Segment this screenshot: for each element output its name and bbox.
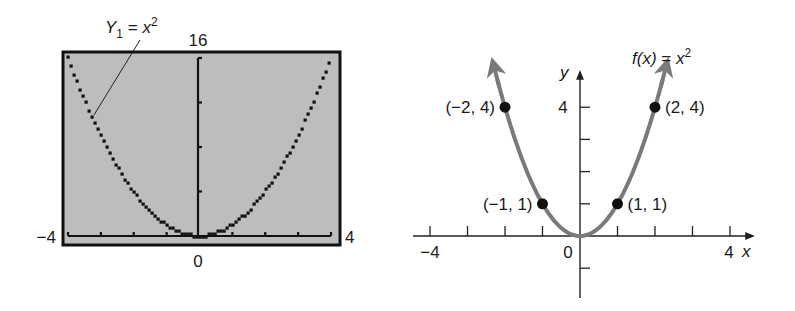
calc-curve-pixel [118,167,121,170]
point-marker [537,198,548,209]
calc-curve-pixel [265,188,268,191]
calc-curve-pixel [289,152,292,155]
calc-curve-pixel [295,140,298,143]
function-label: f(x) = x2 [632,46,691,68]
origin-label: 0 [563,243,572,262]
calc-curve-pixel [256,200,259,203]
calc-curve-pixel [310,107,313,110]
calc-curve-pixel [79,89,82,92]
calc-origin-label: 0 [193,252,202,271]
calc-curve-pixel [121,173,124,176]
calc-curve-pixel [244,215,247,218]
calc-curve-pixel [301,128,304,131]
point-label: (−2, 4) [445,98,495,117]
point-marker [500,102,511,113]
calc-curve-pixel [73,74,76,77]
figure: Y1 = x2 16 −4 4 0 (−2, 4)(−1, 1)(1, 1)(2… [0,0,795,311]
calc-xmax-label: 4 [345,228,354,247]
calc-curve-pixel [133,191,136,194]
calc-curve-pixel [109,152,112,155]
y-axis-ticks [580,107,590,268]
calc-curve-pixel [271,182,274,185]
calculator-screen-frame [63,52,340,245]
calc-curve-pixel [235,221,238,224]
calc-curve-pixel [280,167,283,170]
calc-curve-pixel [196,236,199,239]
calc-curve-pixel [88,110,91,113]
calc-curve-pixel [91,116,94,119]
calc-curve-pixel [106,146,109,149]
calc-curve-pixel [160,221,163,224]
calc-curve-pixel [307,113,310,116]
calc-curve-pixel [130,188,133,191]
calc-curve-pixel [304,119,307,122]
calc-curve-pixel [208,233,211,236]
calc-curve-pixel [253,203,256,206]
calc-curve-pixel [250,209,253,212]
calc-curve-pixel [67,56,70,59]
calc-curve-pixel [274,176,277,179]
calc-curve-pixel [151,212,154,215]
calc-curve-pixel [136,194,139,197]
point-marker [612,198,623,209]
point-label: (2, 4) [665,98,705,117]
calc-curve-pixel [139,200,142,203]
calc-curve-pixel [103,140,106,143]
x-axis-label: x [741,242,751,261]
calc-curve-pixel [142,203,145,206]
calc-curve-pixel [247,212,250,215]
calc-curve-pixel [178,230,181,233]
calc-curve-pixel [157,218,160,221]
calc-curve-pixel [190,233,193,236]
calc-curve-pixel [70,65,73,68]
calc-curve-pixel [175,230,178,233]
calc-curve-pixel [124,179,127,182]
y-axis-label: y [559,63,570,82]
calc-curve-pixel [202,236,205,239]
calc-curve-pixel [181,233,184,236]
calc-curve-pixel [166,224,169,227]
calc-curve-pixel [76,80,79,83]
calc-curve-pixel [145,206,148,209]
calc-curve-pixel [220,230,223,233]
calc-curve-pixel [100,134,103,137]
calc-curve-pixel [226,227,229,230]
calc-curve-pixel [172,227,175,230]
calc-curve-pixel [241,215,244,218]
calc-curve-pixel [193,236,196,239]
y-tick-label-4: 4 [558,98,567,117]
calc-curve-pixel [283,161,286,164]
calc-curve-pixel [325,71,328,74]
calc-curve-pixel [187,233,190,236]
calc-curve-pixel [319,86,322,89]
calc-curve-pixel [184,233,187,236]
calc-curve-pixel [214,233,217,236]
calc-ymax-label: 16 [189,31,208,50]
x-tick-label-min: −4 [420,243,439,262]
calc-function-label: Y1 = x2 [105,15,158,41]
calc-curve-pixel [292,146,295,149]
point-marker [650,102,661,113]
calc-curve-pixel [217,230,220,233]
calc-curve-pixel [223,230,226,233]
calc-curve-pixel [322,77,325,80]
calc-curve-pixel [232,224,235,227]
calc-curve-pixel [259,197,262,200]
calc-xmin-label: −4 [37,228,56,247]
calc-curve-pixel [115,164,118,167]
calc-curve-pixel [205,236,208,239]
point-label: (−1, 1) [483,195,533,214]
calc-curve-pixel [199,236,202,239]
calc-curve-pixel [313,101,316,104]
point-label: (1, 1) [628,195,668,214]
calc-curve-pixel [316,92,319,95]
calculator-graph: Y1 = x2 16 −4 4 0 [37,15,355,271]
calc-curve-pixel [148,209,151,212]
calc-curve-pixel [82,95,85,98]
x-tick-label-max: 4 [724,243,733,262]
calc-curve-pixel [262,194,265,197]
plotted-points: (−2, 4)(−1, 1)(1, 1)(2, 4) [445,98,704,214]
calc-curve-pixel [169,227,172,230]
calc-curve-pixel [97,128,100,131]
calc-curve-pixel [127,182,130,185]
